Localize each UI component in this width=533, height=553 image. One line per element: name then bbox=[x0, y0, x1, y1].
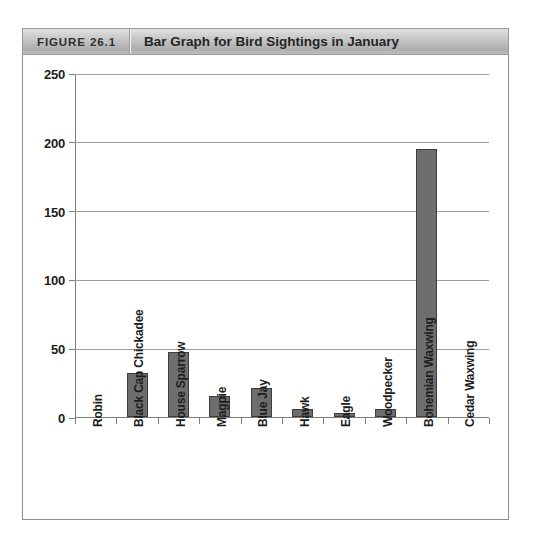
x-tick-label: Eagle bbox=[339, 396, 353, 427]
x-tick-mark bbox=[365, 418, 366, 424]
y-tick-label: 250 bbox=[44, 67, 65, 82]
x-tick-mark bbox=[158, 418, 159, 424]
x-tick-mark bbox=[448, 418, 449, 424]
y-tick-mark bbox=[69, 74, 75, 75]
x-tick-mark bbox=[489, 418, 490, 424]
y-axis-line bbox=[75, 74, 76, 418]
figure-title: Bar Graph for Bird Sightings in January bbox=[131, 29, 409, 54]
x-tick-mark bbox=[241, 418, 242, 424]
figure-caption-bar: FIGURE 26.1 Bar Graph for Bird Sightings… bbox=[22, 28, 509, 55]
y-tick-label: 150 bbox=[44, 204, 65, 219]
gridline bbox=[75, 74, 489, 75]
x-tick-mark bbox=[75, 418, 76, 424]
x-tick-label: Woodpecker bbox=[381, 357, 395, 427]
y-tick-mark bbox=[69, 142, 75, 143]
gridline bbox=[75, 142, 489, 143]
bar-chart-plot: 050100150200250RobinBlack Cap ChickadeeH… bbox=[75, 74, 489, 418]
x-tick-mark bbox=[323, 418, 324, 424]
x-tick-mark bbox=[282, 418, 283, 424]
y-tick-label: 100 bbox=[44, 273, 65, 288]
x-tick-label: Hawk bbox=[298, 396, 312, 427]
y-tick-label: 200 bbox=[44, 135, 65, 150]
x-tick-label: Cedar Waxwing bbox=[463, 341, 477, 427]
figure-container: FIGURE 26.1 Bar Graph for Bird Sightings… bbox=[0, 0, 533, 553]
x-tick-label: House Sparrow bbox=[174, 342, 188, 427]
figure-number-label: FIGURE 26.1 bbox=[23, 29, 129, 54]
x-tick-label: Bohemian Waxwing bbox=[422, 317, 436, 427]
x-tick-label: Magpie bbox=[215, 387, 229, 427]
chart-area: 050100150200250RobinBlack Cap ChickadeeH… bbox=[22, 55, 509, 520]
y-tick-mark bbox=[69, 280, 75, 281]
x-tick-label: Black Cap Chickadee bbox=[132, 309, 146, 427]
y-tick-mark bbox=[69, 211, 75, 212]
x-tick-label: Blue Jay bbox=[256, 379, 270, 427]
y-tick-mark bbox=[69, 349, 75, 350]
y-tick-label: 0 bbox=[58, 411, 65, 426]
x-tick-mark bbox=[199, 418, 200, 424]
x-tick-label: Robin bbox=[91, 394, 105, 427]
x-tick-mark bbox=[116, 418, 117, 424]
y-tick-label: 50 bbox=[51, 342, 65, 357]
x-tick-mark bbox=[406, 418, 407, 424]
